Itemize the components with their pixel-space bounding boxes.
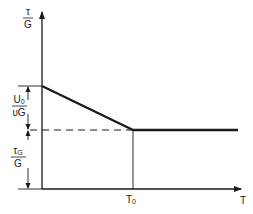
upper-dimension-label-denominator: υG	[12, 107, 25, 118]
x-axis-label: T	[240, 195, 246, 206]
y-axis-label-denominator: G	[24, 19, 32, 30]
lower-dimension-label-denominator: G	[14, 158, 22, 169]
upper-dimension-label-numerator: U0	[13, 94, 24, 105]
t0-label: T0	[126, 194, 136, 205]
lower-dimension-label-numerator: τG	[13, 145, 22, 156]
y-axis-label-numerator: τ	[26, 6, 30, 17]
diagram-canvas: τ G U0 υG τG G T T0	[0, 0, 253, 214]
sloped-segment	[42, 86, 133, 130]
